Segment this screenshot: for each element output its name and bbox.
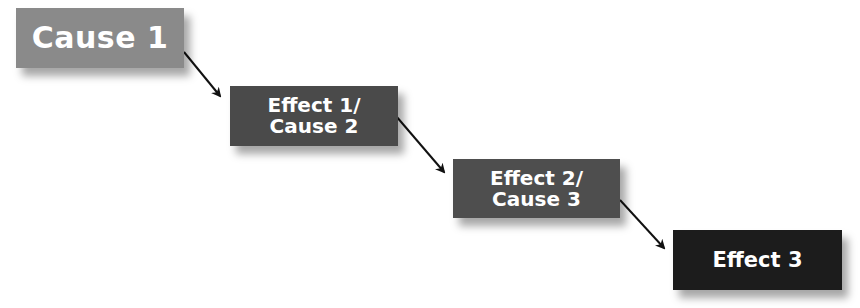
node-effect-2-cause-3: Effect 2/ Cause 3 xyxy=(453,159,620,218)
node-cause-1: Cause 1 xyxy=(16,8,184,68)
node-label: Effect 3 xyxy=(712,249,802,271)
node-effect-3: Effect 3 xyxy=(673,230,842,290)
node-label: Cause 1 xyxy=(32,22,169,54)
arrow-cause1-to-effect1 xyxy=(184,52,220,96)
node-effect-1-cause-2: Effect 1/ Cause 2 xyxy=(230,86,398,146)
node-label: Effect 2/ Cause 3 xyxy=(490,168,583,210)
node-label: Effect 1/ Cause 2 xyxy=(267,95,360,137)
arrow-effect2-to-effect3 xyxy=(620,200,664,248)
arrow-effect1-to-effect2 xyxy=(396,116,444,172)
